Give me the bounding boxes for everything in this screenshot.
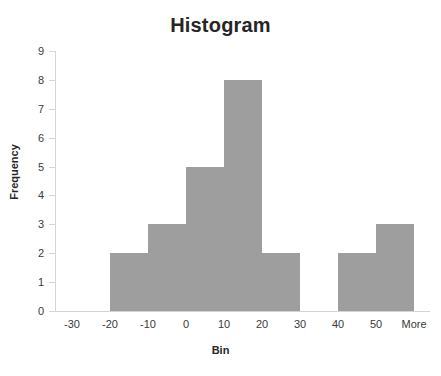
- histogram-bar: [186, 167, 224, 311]
- y-tick-label: 5: [24, 161, 44, 173]
- x-tick-label: 20: [256, 318, 268, 330]
- x-axis-line: [55, 311, 430, 312]
- y-tick-label: 4: [24, 189, 44, 201]
- x-tick-label: 40: [332, 318, 344, 330]
- bars-layer: [55, 51, 430, 311]
- y-tick-label: 9: [24, 45, 44, 57]
- y-tick-mark: [49, 311, 55, 312]
- y-tick-label: 8: [24, 74, 44, 86]
- x-tick-label: 0: [183, 318, 189, 330]
- x-tick-label: -20: [102, 318, 118, 330]
- y-tick-label: 0: [24, 305, 44, 317]
- x-tick-label: More: [401, 318, 426, 330]
- chart-title: Histogram: [0, 14, 441, 37]
- histogram-chart: Histogram Frequency 0123456789 -30-20-10…: [0, 0, 441, 376]
- y-tick-label: 2: [24, 247, 44, 259]
- y-tick-label: 1: [24, 276, 44, 288]
- histogram-bar: [148, 224, 186, 311]
- x-axis-title: Bin: [0, 344, 441, 356]
- y-axis-title: Frequency: [8, 132, 20, 212]
- x-tick-label: 10: [218, 318, 230, 330]
- y-tick-label: 6: [24, 132, 44, 144]
- histogram-bar: [338, 253, 376, 311]
- histogram-bar: [376, 224, 414, 311]
- x-tick-label: -10: [140, 318, 156, 330]
- y-tick-labels: 0123456789: [22, 0, 44, 376]
- histogram-bar: [110, 253, 148, 311]
- histogram-bar: [224, 80, 262, 311]
- histogram-bar: [262, 253, 300, 311]
- x-tick-label: 50: [370, 318, 382, 330]
- x-tick-label: 30: [294, 318, 306, 330]
- y-tick-label: 7: [24, 103, 44, 115]
- y-tick-label: 3: [24, 218, 44, 230]
- x-tick-label: -30: [64, 318, 80, 330]
